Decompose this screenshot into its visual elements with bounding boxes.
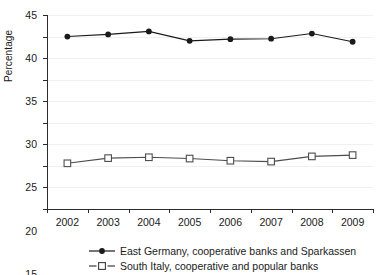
data-point [309, 31, 315, 37]
x-tick-label: 2006 [219, 216, 242, 228]
data-series-layer [47, 15, 373, 210]
data-point [187, 38, 193, 44]
y-tick-label: 15 [25, 268, 37, 275]
data-point [309, 153, 316, 160]
chart-legend: East Germany, cooperative banks and Spar… [88, 243, 356, 273]
series-2 [64, 152, 356, 167]
data-point [350, 39, 356, 45]
x-tick-label: 2002 [56, 216, 79, 228]
data-point [186, 155, 193, 162]
x-tick-label: 2005 [178, 216, 201, 228]
data-point [227, 157, 234, 164]
data-point [227, 36, 233, 42]
y-tick-label: 45 [25, 9, 37, 21]
x-tick-label: 2009 [341, 216, 364, 228]
data-point [146, 28, 152, 34]
series-1 [64, 28, 355, 44]
legend-marker-open-square-icon [88, 260, 116, 272]
legend-label-south-italy: South Italy, cooperative and popular ban… [120, 260, 318, 272]
data-point [105, 155, 112, 162]
x-tick-label: 2004 [137, 216, 160, 228]
data-point [64, 34, 70, 40]
legend-item-south-italy: South Italy, cooperative and popular ban… [88, 258, 356, 273]
data-point [349, 152, 356, 159]
legend-label-east-germany: East Germany, cooperative banks and Spar… [120, 245, 356, 257]
y-tick-label: 30 [25, 138, 37, 150]
x-tick-label: 2003 [96, 216, 119, 228]
data-point [64, 160, 71, 167]
y-tick-label: 25 [25, 181, 37, 193]
x-tick-label: 2007 [259, 216, 282, 228]
data-point [146, 154, 153, 161]
y-tick-label: 35 [25, 95, 37, 107]
line-chart: Percentage 051015202530354045 2002200320… [0, 0, 392, 275]
x-tick-mark [373, 209, 374, 213]
x-tick-label: 2008 [300, 216, 323, 228]
y-tick-label: 40 [25, 52, 37, 64]
legend-item-east-germany: East Germany, cooperative banks and Spar… [88, 243, 356, 258]
legend-marker-filled-circle-icon [88, 245, 116, 257]
data-point [105, 32, 111, 38]
data-point [268, 36, 274, 42]
plot-area: 051015202530354045 200220032004200520062… [47, 15, 373, 209]
data-point [268, 158, 275, 165]
y-tick-label: 20 [25, 225, 37, 237]
